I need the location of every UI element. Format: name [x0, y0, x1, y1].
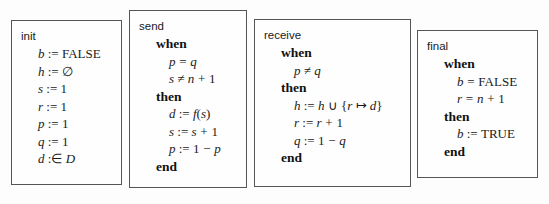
statement-init-1: h := ∅: [21, 63, 101, 81]
statement-send-4: d := f(s): [139, 105, 221, 123]
statement-send-5: s := s + 1: [139, 123, 221, 141]
event-title-receive: receive: [264, 27, 383, 44]
keyword-send-3: then: [139, 88, 221, 106]
event-body-init: initb := FALSEh := ∅s := 1r := 1p := 1q …: [21, 28, 101, 168]
event-title-send: send: [139, 18, 221, 35]
statement-receive-4: r := r + 1: [264, 114, 383, 132]
statement-receive-3: h := h ∪ {r ↦ d}: [264, 97, 383, 115]
event-body-send: sendwhenp = qs ≠ n + 1thend := f(s)s := …: [139, 18, 221, 175]
statement-final-4: b := TRUE: [427, 125, 517, 143]
diagram-canvas: initb := FALSEh := ∅s := 1r := 1p := 1q …: [0, 0, 549, 204]
keyword-send-0: when: [139, 35, 221, 53]
statement-send-1: p = q: [139, 53, 221, 71]
event-title-final: final: [427, 38, 517, 55]
statement-init-0: b := FALSE: [21, 45, 101, 63]
event-body-receive: receivewhenp ≠ qthenh := h ∪ {r ↦ d}r :=…: [264, 27, 383, 167]
statement-init-3: r := 1: [21, 98, 101, 116]
keyword-receive-6: end: [264, 149, 383, 167]
statement-init-5: q := 1: [21, 133, 101, 151]
statement-receive-1: p ≠ q: [264, 62, 383, 80]
keyword-receive-2: then: [264, 79, 383, 97]
statement-init-4: p := 1: [21, 115, 101, 133]
statement-send-6: p := 1 − p: [139, 140, 221, 158]
statement-init-2: s := 1: [21, 80, 101, 98]
statement-init-6: d :∈ D: [21, 150, 101, 168]
keyword-receive-0: when: [264, 44, 383, 62]
keyword-final-5: end: [427, 143, 517, 161]
keyword-final-3: then: [427, 108, 517, 126]
statement-receive-5: q := 1 − q: [264, 132, 383, 150]
event-title-init: init: [21, 28, 101, 45]
event-box-receive: receivewhenp ≠ qthenh := h ∪ {r ↦ d}r :=…: [254, 19, 411, 187]
event-box-final: finalwhenb = FALSEr = n + 1thenb := TRUE…: [417, 30, 538, 178]
event-body-final: finalwhenb = FALSEr = n + 1thenb := TRUE…: [427, 38, 517, 160]
statement-send-2: s ≠ n + 1: [139, 70, 221, 88]
keyword-send-7: end: [139, 158, 221, 176]
keyword-final-0: when: [427, 55, 517, 73]
event-box-init: initb := FALSEh := ∅s := 1r := 1p := 1q …: [11, 20, 122, 185]
event-box-send: sendwhenp = qs ≠ n + 1thend := f(s)s := …: [129, 10, 247, 188]
statement-final-1: b = FALSE: [427, 73, 517, 91]
statement-final-2: r = n + 1: [427, 90, 517, 108]
